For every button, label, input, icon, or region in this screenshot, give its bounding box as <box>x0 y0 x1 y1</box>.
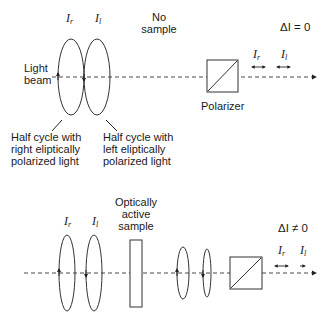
bottom-delta-intensity-label: ΔI ≠ 0 <box>278 222 308 234</box>
top-polarizer-label: Polarizer <box>201 100 244 112</box>
top-delta-intensity-label: ΔI = 0 <box>280 21 310 33</box>
top-caption-right-pointer <box>52 120 62 131</box>
optically-active-sample-label: Optically active sample <box>110 196 162 232</box>
bottom-output-right-label: Ir <box>278 244 285 260</box>
top-output-left-label: Il <box>281 48 287 64</box>
bottom-intensity-right-label: Ir <box>64 215 71 231</box>
bottom-polarizer <box>230 257 262 289</box>
top-polarizer <box>207 60 238 92</box>
top-intensity-right-label: Ir <box>66 12 73 28</box>
caption-right-polarized: Half cycle with right eliptically polari… <box>11 131 81 167</box>
no-sample-label: No sample <box>138 11 180 35</box>
top-caption-left-pointer <box>106 120 117 131</box>
top-output-right-label: Ir <box>253 48 260 64</box>
light-beam-label: Light beam <box>24 62 52 86</box>
optically-active-sample <box>130 240 142 307</box>
bottom-intensity-left-label: Il <box>92 215 98 231</box>
top-intensity-left-label: Il <box>95 12 101 28</box>
caption-left-polarized: Half cycle with left eliptically polariz… <box>103 131 173 167</box>
bottom-output-left-label: Il <box>300 244 306 260</box>
